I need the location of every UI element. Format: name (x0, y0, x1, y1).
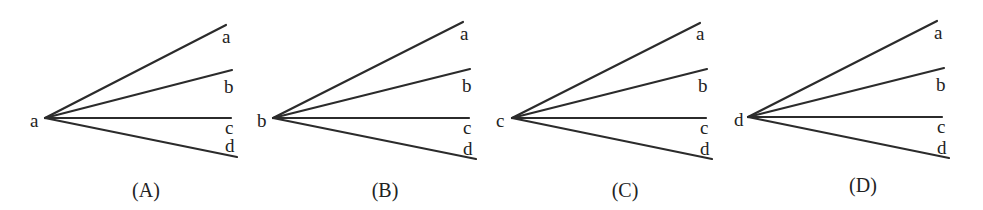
ray-b (748, 68, 944, 117)
origin-label: a (30, 110, 39, 131)
ray-a (748, 21, 937, 117)
ray-label-b: b (462, 75, 472, 96)
ray-label-d: d (463, 138, 473, 159)
ray-a (512, 23, 700, 118)
ray-label-c: c (463, 117, 471, 138)
ray-label-b: b (936, 74, 946, 95)
ray-d (273, 118, 476, 159)
ray-b (273, 69, 470, 118)
ray-label-d: d (700, 138, 710, 159)
panel-caption: (D) (849, 174, 877, 197)
ray-a (273, 22, 463, 118)
ray-label-a: a (222, 26, 231, 47)
ray-b (45, 70, 232, 118)
origin-label: b (257, 110, 267, 131)
ray-b (512, 69, 707, 118)
panel-caption: (C) (612, 179, 639, 202)
ray-label-c: c (700, 117, 708, 138)
ray-d (45, 118, 237, 157)
panel-c: c a b c d (C) (496, 23, 712, 202)
panel-b: b a b c d (B) (257, 22, 476, 202)
ray-label-a: a (696, 23, 705, 44)
ray-label-a: a (460, 23, 469, 44)
panel-a: a a b c d (A) (30, 25, 237, 202)
ray-d (512, 118, 712, 159)
ray-d (748, 117, 949, 158)
panel-d: d a b c d (D) (734, 21, 949, 197)
origin-label: c (496, 110, 504, 131)
origin-label: d (734, 109, 744, 130)
ray-label-d: d (937, 137, 947, 158)
ray-label-c: c (937, 116, 945, 137)
ray-a (45, 25, 226, 118)
ray-label-a: a (934, 22, 943, 43)
panel-caption: (A) (132, 179, 160, 202)
ray-label-d: d (225, 135, 235, 156)
ray-label-b: b (224, 76, 234, 97)
panel-caption: (B) (372, 179, 399, 202)
diagram-four-ray-panels: a a b c d (A) b a b c d (B) c a b c d (C… (0, 0, 983, 210)
ray-label-b: b (698, 75, 708, 96)
